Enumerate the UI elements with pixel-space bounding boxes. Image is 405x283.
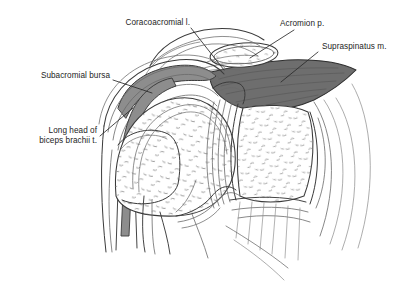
illustration-linework [99,28,370,280]
label-long-head-biceps-line1: Long head of [0,126,97,137]
label-acromion-process: Acromion p. [280,19,370,30]
anatomy-figure-page: Coracoacromial l. Acromion p. Supraspina… [0,0,405,283]
label-coracoacromial-ligament: Coracoacromial l. [64,18,190,29]
label-supraspinatus-muscle: Supraspinatus m. [322,42,405,53]
label-long-head-biceps-line2: biceps brachii t. [0,136,97,147]
lateral-scapula-contours [310,84,370,250]
label-subacromial-bursa: Subacromial bursa [0,71,110,82]
